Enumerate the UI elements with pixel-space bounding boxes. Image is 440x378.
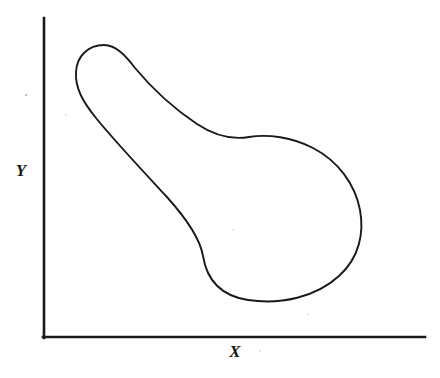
speck xyxy=(307,313,309,315)
y-axis-label: Y xyxy=(16,161,28,180)
speck xyxy=(25,94,27,96)
x-axis-label: X xyxy=(228,342,241,361)
figure-container: Y X xyxy=(0,0,440,378)
speck xyxy=(65,114,67,116)
scatter-region-figure: Y X xyxy=(0,0,440,378)
speck xyxy=(259,350,261,352)
speck xyxy=(232,229,234,231)
figure-background xyxy=(0,0,440,378)
